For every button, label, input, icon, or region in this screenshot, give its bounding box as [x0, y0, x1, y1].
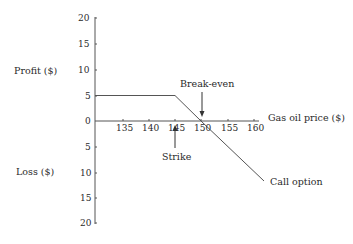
x-axis-label: Gas oil price ($) [268, 113, 345, 123]
y-tick-label: 5 [85, 92, 91, 101]
x-tick-label: 135 [116, 124, 133, 133]
strike-annotation: Strike [162, 152, 191, 162]
x-tick-label: 150 [194, 124, 211, 133]
profit-axis-label: Profit ($) [14, 66, 57, 76]
y-tick-label: 20 [80, 219, 91, 228]
y-tick-label: 0 [85, 117, 91, 126]
x-tick-label: 145 [168, 124, 185, 133]
x-tick-label: 160 [247, 124, 264, 133]
y-tick-label: 20 [78, 14, 89, 23]
y-tick-label: 15 [80, 194, 91, 203]
y-tick-label: 15 [78, 40, 89, 49]
call-option-annotation: Call option [270, 177, 323, 187]
x-tick-label: 155 [221, 124, 238, 133]
x-tick-label: 140 [142, 124, 159, 133]
call-option-payoff-line [95, 96, 264, 182]
y-tick-label: 10 [78, 66, 89, 75]
break-even-annotation: Break-even [180, 79, 234, 89]
y-tick-label: 5 [85, 143, 91, 152]
loss-axis-label: Loss ($) [16, 167, 54, 177]
y-tick-label: 10 [80, 169, 91, 178]
